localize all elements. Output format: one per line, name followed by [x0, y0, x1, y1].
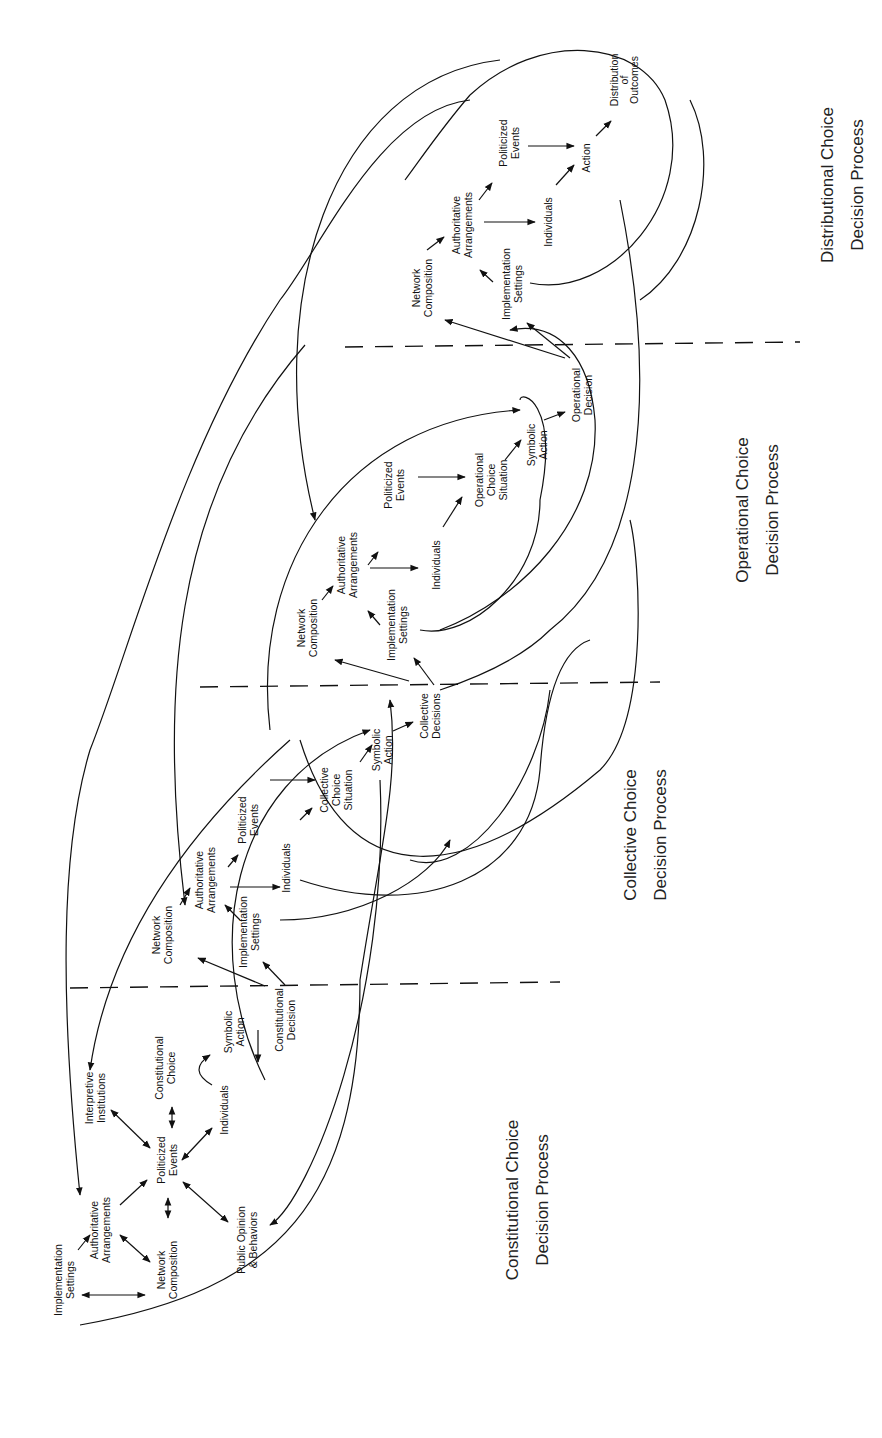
svg-text:AuthoritativeArrangements: AuthoritativeArrangements — [88, 1197, 112, 1263]
node-politicized-events: PoliticizedEvents — [497, 119, 521, 166]
svg-text:CollectiveDecisions: CollectiveDecisions — [418, 693, 442, 739]
node-constitutional-decision: ConstitutionalDecision — [273, 988, 297, 1052]
node-network-composition: NetworkComposition — [410, 259, 434, 318]
node-network-composition: NetworkComposition — [150, 906, 174, 965]
svg-text:SymbolicAction: SymbolicAction — [222, 1011, 246, 1054]
svg-text:Decision Process: Decision Process — [533, 1134, 552, 1265]
node-symbolic-action: SymbolicAction — [222, 1011, 246, 1054]
svg-text:OperationalDecision: OperationalDecision — [570, 368, 594, 422]
svg-text:DistributionofOutcomes: DistributionofOutcomes — [608, 54, 640, 107]
svg-text:SymbolicAction: SymbolicAction — [525, 424, 549, 467]
node-authoritative-arrangements: AuthoritativeArrangements — [88, 1197, 112, 1263]
collective-nodes: NetworkComposition AuthoritativeArrangem… — [150, 693, 442, 968]
node-implementation-settings: ImplementationSettings — [52, 1244, 76, 1316]
node-implementation-settings: ImplementationSettings — [237, 896, 261, 968]
svg-text:AuthoritativeArrangements: AuthoritativeArrangements — [335, 532, 359, 598]
svg-text:Distributional Choice: Distributional Choice — [818, 107, 837, 263]
svg-text:Individuals: Individuals — [218, 1085, 230, 1135]
node-choice-situation: CollectiveChoiceSituation — [318, 767, 354, 813]
svg-text:CollectiveChoiceSituation: CollectiveChoiceSituation — [318, 767, 354, 813]
node-authoritative-arrangements: AuthoritativeArrangements — [193, 847, 217, 913]
node-individuals: Individuals — [542, 197, 554, 247]
node-distribution-of-outcomes: DistributionofOutcomes — [608, 54, 640, 107]
node-interpretive-institutions: InterpretiveInstitutions — [83, 1072, 107, 1125]
section-dividers — [70, 342, 800, 988]
svg-text:ImplementationSettings: ImplementationSettings — [385, 589, 409, 661]
svg-text:PoliticizedEvents: PoliticizedEvents — [382, 461, 406, 508]
node-authoritative-arrangements: AuthoritativeArrangements — [335, 532, 359, 598]
node-collective-decisions: CollectiveDecisions — [418, 693, 442, 739]
node-network-composition: NetworkComposition — [155, 1241, 179, 1300]
node-implementation-settings: ImplementationSettings — [500, 248, 524, 320]
svg-text:NetworkComposition: NetworkComposition — [150, 906, 174, 965]
svg-text:Decision Process: Decision Process — [651, 769, 670, 900]
svg-text:Decision Process: Decision Process — [763, 444, 782, 575]
flow-arrows — [78, 121, 611, 1295]
node-operational-decision: OperationalDecision — [570, 368, 594, 422]
svg-text:ImplementationSettings: ImplementationSettings — [52, 1244, 76, 1316]
policy-process-diagram: Constitutional Choice Decision Process C… — [0, 0, 882, 1438]
section-titles: Constitutional Choice Decision Process C… — [503, 107, 867, 1280]
node-individuals: Individuals — [218, 1085, 230, 1135]
constitutional-nodes: ImplementationSettings AuthoritativeArra… — [52, 988, 297, 1316]
svg-text:Decision Process: Decision Process — [848, 119, 867, 250]
node-politicized-events: PoliticizedEvents — [236, 796, 260, 843]
svg-text:Action: Action — [580, 143, 592, 172]
svg-text:Public Opinion& Behaviors: Public Opinion& Behaviors — [235, 1206, 259, 1274]
svg-text:Constitutional Choice: Constitutional Choice — [503, 1120, 522, 1281]
svg-text:AuthoritativeArrangements: AuthoritativeArrangements — [450, 192, 474, 258]
distributional-nodes: NetworkComposition AuthoritativeArrangem… — [410, 54, 640, 320]
svg-text:Collective Choice: Collective Choice — [621, 769, 640, 900]
svg-text:NetworkComposition: NetworkComposition — [410, 259, 434, 318]
node-constitutional-choice: ConstitutionalChoice — [153, 1036, 177, 1100]
svg-text:Individuals: Individuals — [280, 843, 292, 893]
node-action: Action — [580, 143, 592, 172]
svg-text:AuthoritativeArrangements: AuthoritativeArrangements — [193, 847, 217, 913]
node-symbolic-action: SymbolicAction — [525, 424, 549, 467]
node-individuals: Individuals — [280, 843, 292, 893]
process-loops — [66, 50, 704, 1325]
svg-text:Individuals: Individuals — [430, 540, 442, 590]
node-implementation-settings: ImplementationSettings — [385, 589, 409, 661]
svg-text:ConstitutionalChoice: ConstitutionalChoice — [153, 1036, 177, 1100]
node-authoritative-arrangements: AuthoritativeArrangements — [450, 192, 474, 258]
svg-text:InterpretiveInstitutions: InterpretiveInstitutions — [83, 1072, 107, 1125]
svg-text:ConstitutionalDecision: ConstitutionalDecision — [273, 988, 297, 1052]
svg-text:SymbolicAction: SymbolicAction — [370, 729, 394, 772]
node-politicized-events: PoliticizedEvents — [155, 1136, 179, 1183]
svg-text:PoliticizedEvents: PoliticizedEvents — [236, 796, 260, 843]
svg-text:Individuals: Individuals — [542, 197, 554, 247]
svg-text:NetworkComposition: NetworkComposition — [155, 1241, 179, 1300]
svg-text:PoliticizedEvents: PoliticizedEvents — [155, 1136, 179, 1183]
svg-text:ImplementationSettings: ImplementationSettings — [500, 248, 524, 320]
node-individuals: Individuals — [430, 540, 442, 590]
svg-text:OperationalChoiceSituation: OperationalChoiceSituation — [473, 453, 509, 507]
svg-text:NetworkComposition: NetworkComposition — [295, 599, 319, 658]
svg-text:ImplementationSettings: ImplementationSettings — [237, 896, 261, 968]
svg-text:PoliticizedEvents: PoliticizedEvents — [497, 119, 521, 166]
svg-text:Operational Choice: Operational Choice — [733, 437, 752, 583]
node-network-composition: NetworkComposition — [295, 599, 319, 658]
node-choice-situation: OperationalChoiceSituation — [473, 453, 509, 507]
operational-nodes: NetworkComposition AuthoritativeArrangem… — [295, 368, 594, 661]
node-politicized-events: PoliticizedEvents — [382, 461, 406, 508]
node-public-opinion: Public Opinion& Behaviors — [235, 1206, 259, 1274]
node-symbolic-action: SymbolicAction — [370, 729, 394, 772]
